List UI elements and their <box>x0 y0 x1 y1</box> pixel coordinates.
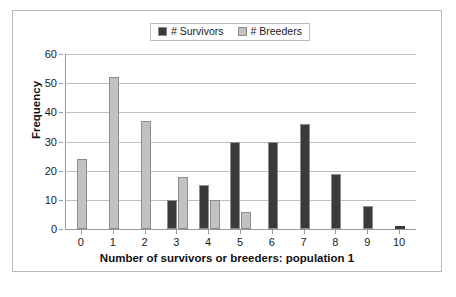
x-tick-mark <box>81 230 82 234</box>
bar-group <box>130 54 162 229</box>
x-tick-cell: 9 <box>351 230 383 250</box>
y-tick-mark <box>59 200 63 201</box>
bar-group <box>98 54 130 229</box>
y-tick-mark <box>59 229 63 230</box>
bar <box>178 177 188 230</box>
x-tick-mark <box>113 230 114 234</box>
bar <box>230 142 240 230</box>
y-tick-label: 60 <box>45 48 57 60</box>
bar-group <box>193 54 225 229</box>
y-tick-mark <box>59 142 63 143</box>
y-tick-label: 40 <box>45 106 57 118</box>
bar <box>395 226 405 229</box>
bar <box>199 185 209 229</box>
bar-group <box>321 54 353 229</box>
x-tick-label: 10 <box>383 236 415 248</box>
x-tick-cell: 3 <box>160 230 192 250</box>
y-tick-label: 10 <box>45 194 57 206</box>
x-tick-cell: 4 <box>192 230 224 250</box>
x-tick-mark <box>272 230 273 234</box>
x-tick-cell: 8 <box>320 230 352 250</box>
bar <box>167 200 177 229</box>
bar <box>331 174 341 229</box>
bar <box>268 142 278 230</box>
bar <box>210 200 220 229</box>
x-tick-cell: 10 <box>383 230 415 250</box>
bar <box>109 77 119 229</box>
bar-group <box>352 54 384 229</box>
x-tick-mark <box>399 230 400 234</box>
bar <box>300 124 310 229</box>
y-tick-mark <box>59 83 63 84</box>
x-tick-label: 4 <box>192 236 224 248</box>
x-tick-cell: 5 <box>224 230 256 250</box>
legend-label-survivors: # Survivors <box>171 26 224 37</box>
legend-label-breeders: # Breeders <box>251 26 302 37</box>
x-tick-label: 9 <box>351 236 383 248</box>
plot-area <box>65 54 416 230</box>
legend-entry-survivors: # Survivors <box>158 26 224 37</box>
x-tick-mark <box>208 230 209 234</box>
x-tick-label: 8 <box>320 236 352 248</box>
bar <box>77 159 87 229</box>
x-tick-label: 5 <box>224 236 256 248</box>
x-tick-mark <box>367 230 368 234</box>
x-tick-cell: 1 <box>97 230 129 250</box>
y-tick-mark <box>59 112 63 113</box>
bar <box>141 121 151 229</box>
x-tick-cell: 6 <box>256 230 288 250</box>
x-tick-mark <box>335 230 336 234</box>
y-tick-mark <box>59 54 63 55</box>
y-tick-mark <box>59 171 63 172</box>
y-tick-label: 30 <box>45 136 57 148</box>
bar-group <box>225 54 257 229</box>
y-tick-label: 20 <box>45 165 57 177</box>
bar-group <box>257 54 289 229</box>
x-tick-cell: 7 <box>288 230 320 250</box>
bar-series-container <box>66 54 416 229</box>
chart-legend: # Survivors # Breeders <box>150 23 310 41</box>
chart-frame: # Survivors # Breeders Frequency 0102030… <box>12 10 442 272</box>
x-tick-mark <box>145 230 146 234</box>
x-tick-label: 3 <box>160 236 192 248</box>
legend-swatch-breeders <box>238 27 247 36</box>
x-tick-mark <box>304 230 305 234</box>
x-tick-cell: 2 <box>129 230 161 250</box>
x-axis-ticks: 012345678910 <box>65 230 415 250</box>
bar-group <box>161 54 193 229</box>
bar-group <box>289 54 321 229</box>
x-tick-label: 6 <box>256 236 288 248</box>
legend-swatch-survivors <box>158 27 167 36</box>
x-tick-label: 2 <box>129 236 161 248</box>
legend-entry-breeders: # Breeders <box>238 26 302 37</box>
bar <box>363 206 373 229</box>
x-tick-cell: 0 <box>65 230 97 250</box>
x-tick-mark <box>240 230 241 234</box>
bar-group <box>66 54 98 229</box>
bar <box>241 212 251 230</box>
x-axis-title: Number of survivors or breeders: populat… <box>13 252 441 264</box>
y-tick-label: 50 <box>45 77 57 89</box>
x-tick-label: 7 <box>288 236 320 248</box>
x-tick-label: 1 <box>97 236 129 248</box>
y-tick-label: 0 <box>51 223 57 235</box>
y-axis-ticks: 0102030405060 <box>13 54 63 229</box>
bar-group <box>384 54 416 229</box>
x-tick-mark <box>176 230 177 234</box>
x-tick-label: 0 <box>65 236 97 248</box>
